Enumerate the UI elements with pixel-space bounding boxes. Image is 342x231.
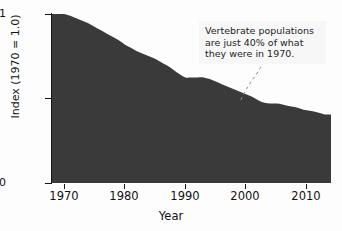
annotation-line-3: they were in 1970.	[205, 48, 321, 60]
x-tick-label-1970: 1970	[42, 190, 86, 202]
chart-figure: Index (1970 = 1.0) 1 0 1970 1980 1990 20…	[0, 0, 342, 231]
annotation-callout: Vertebrate populations are just 40% of w…	[199, 21, 326, 64]
annotation-line-1: Vertebrate populations	[205, 25, 321, 37]
x-tick-label-1990: 1990	[163, 190, 207, 202]
x-tick-label-2010: 2010	[284, 190, 328, 202]
y-tick-0	[45, 183, 52, 184]
y-tick-0-5	[45, 98, 52, 99]
y-tick-1	[45, 14, 52, 15]
y-tick-label-1: 1	[0, 8, 6, 19]
x-axis-title: Year	[0, 209, 342, 223]
annotation-line-2: are just 40% of what	[205, 37, 321, 49]
y-axis-title: Index (1970 = 1.0)	[9, 7, 22, 127]
y-tick-label-0: 0	[0, 177, 6, 188]
x-tick-label-1980: 1980	[102, 190, 146, 202]
x-tick-label-2000: 2000	[223, 190, 267, 202]
